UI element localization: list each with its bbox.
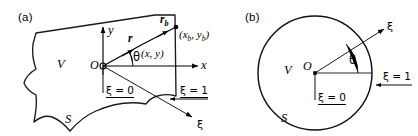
panel-a-boundary-point-label: (xb, yb) <box>179 29 209 43</box>
vector-r-symbol: r <box>128 32 132 44</box>
panel-b-xi-zero-label: ξ = 0 <box>318 92 346 105</box>
panel-a-theta-label: θ <box>133 52 140 64</box>
panel-b-volume-label: V <box>284 64 292 77</box>
panel-b-xi-one-label: ξ = 1 <box>383 71 411 82</box>
figure-root: (a) V S O y x θ r rb (x, y) (xb, yb) ξ =… <box>0 0 418 136</box>
panel-a-xi-axis-label: ξ <box>197 119 203 130</box>
panel-b-tag: (b) <box>245 12 260 24</box>
boundary-point-mid: , y <box>191 28 201 40</box>
body-outline-irregular <box>24 15 176 131</box>
panel-a-x-axis-label: x <box>201 59 207 72</box>
panel-b-origin-label: O <box>303 60 312 72</box>
boundary-point-dot <box>174 25 179 30</box>
panel-a-xi-one-label: ξ = 1 <box>180 85 208 98</box>
panel-a-origin-label: O <box>90 59 99 71</box>
panel-b-xi-axis-label: ξ <box>387 21 393 32</box>
panel-a-interior-point-label: (x, y) <box>141 48 164 59</box>
panel-b-surface-label: S <box>281 112 287 125</box>
panel-a-vector-r-label: r <box>128 33 132 45</box>
boundary-point-prefix: (x <box>179 28 188 40</box>
panel-a-vector-rb-label: rb <box>160 14 168 28</box>
boundary-point-suffix: ) <box>205 28 209 40</box>
panel-a-tag: (a) <box>18 12 33 24</box>
panel-a-xi-zero-label: ξ = 0 <box>106 85 134 98</box>
vector-rb-subscript: b <box>164 19 168 28</box>
panel-a-surface-label: S <box>65 113 71 126</box>
panel-a-y-axis-label: y <box>108 24 114 37</box>
panel-b-theta-label: θ <box>349 55 356 67</box>
panel-a-volume-label: V <box>57 58 65 71</box>
